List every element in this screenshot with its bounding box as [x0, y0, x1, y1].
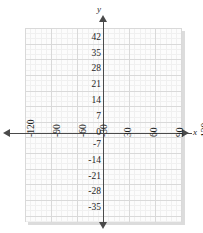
- x-tick-label: 90: [175, 128, 185, 138]
- x-tick-label: -120: [26, 120, 36, 137]
- x-tick-label: 60: [149, 128, 159, 138]
- x-tick-label: 120: [200, 123, 203, 137]
- x-tick-label-group: -120-90-60-30306090120: [0, 0, 203, 233]
- x-tick-label: 30: [123, 128, 133, 138]
- x-tick-label: -90: [52, 124, 62, 137]
- x-tick-label: -60: [78, 124, 88, 137]
- x-tick-label: -30: [99, 124, 109, 137]
- coordinate-plane-figure: y x 423528211470-7-14-21-28-35 -120-90-6…: [0, 0, 203, 233]
